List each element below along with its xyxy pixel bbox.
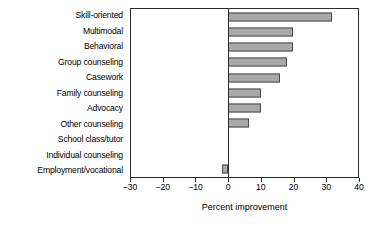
bars-layer [131,9,358,177]
category-label: Individual counseling [0,147,127,162]
tick-label: 40 [354,183,364,192]
bar-row [131,101,358,116]
bar-row [131,162,358,177]
bar-row [131,55,358,70]
bar-row [131,40,358,55]
tick-label: 0 [226,183,231,192]
bar-row [131,85,358,100]
category-label: Casework [0,70,127,85]
category-label: Advocacy [0,101,127,116]
bar [228,27,293,36]
tick-label: −30 [123,183,138,192]
bar-row [131,116,358,131]
plot-area [130,8,359,178]
bar [228,43,293,52]
category-label: Skill-oriented [0,8,127,23]
tick-label: −10 [188,183,203,192]
bar-row [131,70,358,85]
bar [228,58,286,67]
bar-chart: Skill-oriented Multimodal Behavioral Gro… [0,0,377,227]
tick-label: −20 [155,183,170,192]
bar [228,119,249,128]
bar-row [131,24,358,39]
tick-label: 10 [256,183,266,192]
bar [228,104,260,113]
bar-row [131,9,358,24]
bar-row [131,146,358,161]
x-axis-title: Percent improvement [130,203,359,212]
category-label: Multimodal [0,23,127,38]
bar [228,73,280,82]
category-label: Employment/vocational [0,163,127,178]
zero-axis-line [228,9,229,177]
category-label: Behavioral [0,39,127,54]
category-label: Other counseling [0,116,127,131]
bar-row [131,131,358,146]
bar [228,88,260,97]
tick-label: 20 [289,183,299,192]
tick-label: 30 [322,183,332,192]
category-label: Group counseling [0,54,127,69]
category-axis: Skill-oriented Multimodal Behavioral Gro… [0,8,127,178]
category-label: Family counseling [0,85,127,100]
bar [228,12,332,21]
value-axis: −30−20−10010203040 [130,178,359,200]
category-label: School class/tutor [0,132,127,147]
